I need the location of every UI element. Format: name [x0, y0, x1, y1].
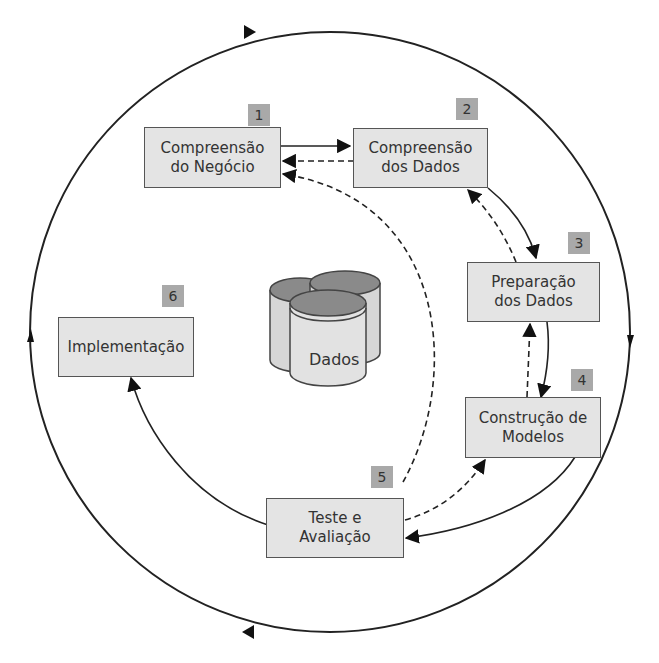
phase-deployment: Implementação	[58, 317, 194, 377]
phase-label-line1: Implementação	[68, 338, 185, 357]
phase-data-preparation: Preparaçãodos Dados	[467, 262, 600, 322]
phase-number-1: 1	[248, 104, 270, 126]
cycle-arrow-right-icon	[627, 335, 634, 348]
phase-number-3: 3	[568, 232, 590, 254]
phase-label-line1: Compreensão	[161, 139, 265, 158]
phase-label-line2: Avaliação	[299, 528, 371, 547]
phase-number-2: 2	[456, 98, 478, 120]
phase-modeling: Construção deModelos	[465, 397, 601, 458]
phase-business-understanding: Compreensãodo Negócio	[144, 127, 281, 188]
phase-number-5: 5	[371, 466, 393, 488]
data-label: Dados	[309, 350, 359, 369]
arrow-5-to-6	[131, 378, 268, 525]
phase-label-line2: Modelos	[479, 428, 588, 447]
arrow-3-to-2	[468, 190, 516, 262]
arrow-3-to-4	[541, 322, 548, 397]
phase-number-4: 4	[571, 369, 593, 391]
phase-label-line1: Preparação	[491, 273, 576, 292]
arrow-4-to-5	[406, 457, 575, 538]
cycle-arrow-bottom-icon	[242, 625, 254, 639]
arrow-4-to-3	[527, 324, 530, 397]
phase-label-line2: dos Dados	[369, 158, 473, 177]
phase-label-line2: do Negócio	[161, 158, 265, 177]
arrow-5-to-4	[405, 460, 485, 520]
cycle-arrow-left-icon	[27, 329, 34, 342]
phase-label-line1: Construção de	[479, 409, 588, 428]
phase-label-line1: Teste e	[299, 509, 371, 528]
phase-label-line1: Compreensão	[369, 139, 473, 158]
cycle-arrow-top-icon	[244, 25, 256, 39]
phase-data-understanding: Compreensãodos Dados	[353, 128, 488, 188]
phase-evaluation: Teste eAvaliação	[266, 498, 404, 558]
phase-label-line2: dos Dados	[491, 292, 576, 311]
phase-number-6: 6	[162, 285, 184, 307]
